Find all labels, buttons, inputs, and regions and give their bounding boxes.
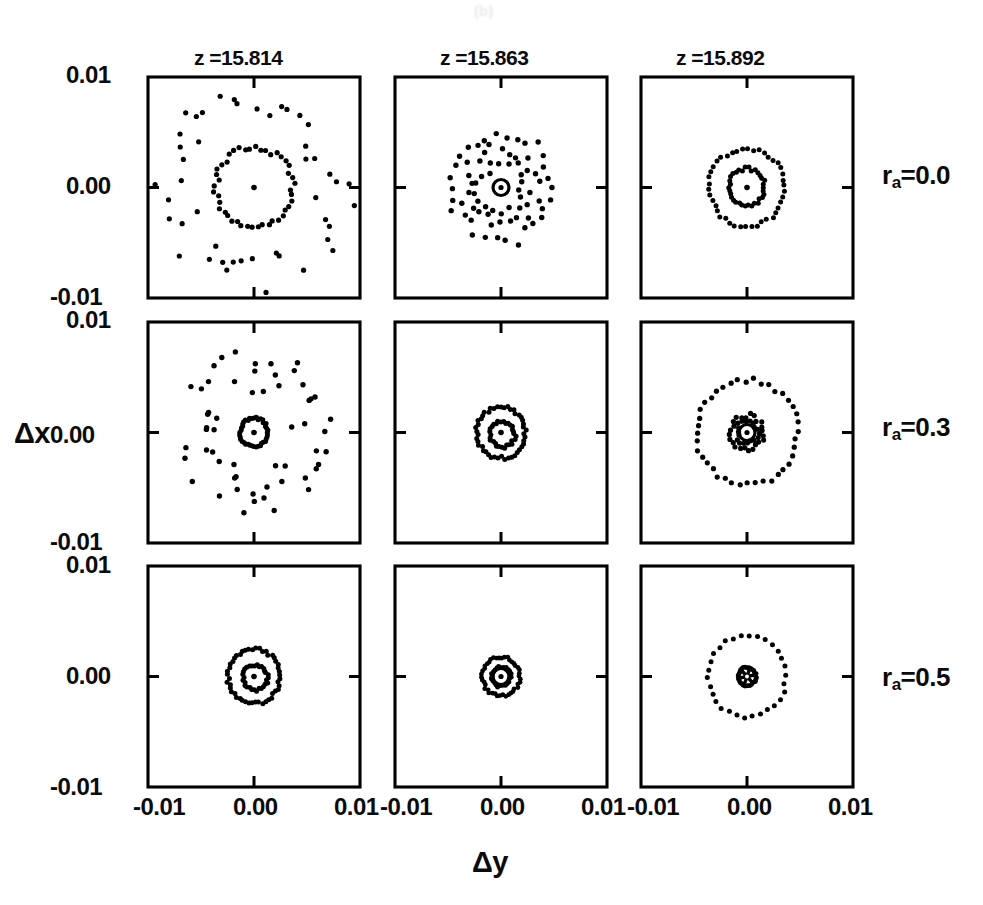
data-point: [735, 421, 740, 426]
panel-r2-c0: [148, 566, 360, 787]
data-point: [714, 389, 719, 394]
data-point: [295, 360, 300, 365]
data-point: [181, 157, 186, 162]
data-point: [782, 690, 787, 695]
data-point: [475, 198, 480, 203]
data-point: [715, 474, 720, 479]
data-point: [755, 224, 760, 229]
data-point: [325, 237, 330, 242]
data-point: [239, 258, 244, 263]
data-point: [204, 427, 209, 432]
data-point: [730, 150, 735, 155]
data-point: [783, 673, 788, 678]
data-point: [258, 148, 263, 153]
data-point: [306, 398, 311, 403]
data-point: [183, 110, 188, 115]
data-point: [303, 475, 308, 480]
panel-r0-c0: [148, 77, 360, 298]
data-point: [277, 676, 282, 681]
data-point: [303, 156, 308, 161]
data-point: [190, 479, 195, 484]
data-point: [302, 421, 307, 426]
data-point: [700, 455, 705, 460]
panel-r1-c0: [148, 322, 360, 543]
panel-r1-c1: [395, 322, 607, 543]
data-point: [153, 182, 158, 187]
data-point: [289, 424, 294, 429]
data-point: [757, 147, 762, 152]
data-point: [211, 189, 216, 194]
data-point: [780, 194, 785, 199]
data-point: [695, 431, 700, 436]
data-point: [447, 175, 452, 180]
data-point: [217, 493, 222, 498]
data-point: [485, 212, 490, 217]
data-point: [207, 257, 212, 262]
data-point: [513, 155, 518, 160]
data-point: [253, 361, 258, 366]
data-point: [182, 456, 187, 461]
data-point: [289, 198, 294, 203]
data-point: [225, 160, 230, 165]
data-point: [284, 107, 289, 112]
data-point: [264, 484, 269, 489]
data-point: [549, 185, 554, 190]
data-point: [717, 645, 722, 650]
data-point: [232, 97, 237, 102]
data-point: [729, 480, 734, 485]
data-point: [490, 208, 495, 213]
data-point: [731, 419, 736, 424]
data-point: [286, 171, 291, 176]
data-point: [749, 224, 754, 229]
data-point: [489, 222, 494, 227]
data-point: [732, 444, 737, 449]
data-point: [483, 235, 488, 240]
data-point: [482, 150, 487, 155]
data-point: [714, 203, 719, 208]
data-point: [711, 466, 716, 471]
data-point: [500, 146, 505, 151]
center-dot-marker: [744, 185, 750, 191]
data-point: [705, 460, 710, 465]
data-point: [206, 379, 211, 384]
data-point: [525, 168, 530, 173]
data-point: [706, 174, 711, 179]
data-point: [232, 379, 237, 384]
data-point: [217, 206, 222, 211]
data-point: [231, 260, 236, 265]
data-point: [265, 432, 270, 437]
data-point: [312, 156, 317, 161]
data-point: [735, 377, 740, 382]
data-point: [706, 668, 711, 673]
data-point: [283, 158, 288, 163]
data-point: [548, 197, 553, 202]
data-point: [323, 449, 328, 454]
data-point: [328, 417, 333, 422]
data-point: [465, 159, 470, 164]
data-point: [217, 177, 222, 182]
data-point: [508, 218, 513, 223]
panel-r1-c2: [641, 322, 853, 543]
data-point: [707, 182, 712, 187]
data-point: [279, 479, 284, 484]
data-point: [276, 218, 281, 223]
data-points: [153, 94, 357, 295]
data-point: [263, 290, 268, 295]
data-point: [306, 122, 311, 127]
data-point: [717, 215, 722, 220]
data-point: [514, 215, 519, 220]
data-point: [507, 152, 512, 157]
data-point: [480, 444, 485, 449]
data-point: [270, 218, 275, 223]
data-point: [457, 154, 462, 159]
data-point: [521, 431, 526, 436]
data-point: [479, 174, 484, 179]
data-point: [756, 201, 761, 206]
data-point: [792, 436, 797, 441]
data-point: [292, 368, 297, 373]
data-point: [759, 419, 764, 424]
data-point: [535, 139, 540, 144]
data-point: [709, 395, 714, 400]
data-point: [279, 104, 284, 109]
data-point: [766, 155, 771, 160]
